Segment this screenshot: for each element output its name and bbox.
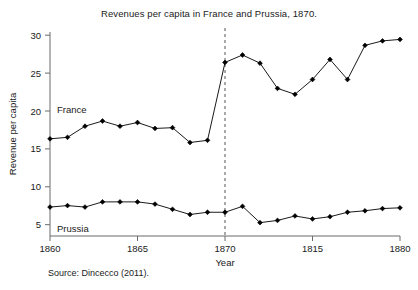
data-point-france-1871 <box>240 53 245 58</box>
data-point-france-1880 <box>398 37 403 42</box>
data-point-prussia-1877 <box>345 210 350 215</box>
data-point-prussia-1868 <box>188 212 193 217</box>
y-axis-title: Revenue per capita <box>7 92 18 175</box>
x-tick-label-1865: 1865 <box>127 243 148 254</box>
y-tick-label-30: 30 <box>30 30 41 41</box>
source-note: Source: Dincecco (2011). <box>48 268 149 278</box>
data-point-prussia-1874 <box>293 214 298 219</box>
data-point-france-1879 <box>380 39 385 44</box>
data-point-prussia-1879 <box>380 206 385 211</box>
x-tick-label-1870: 1870 <box>214 243 235 254</box>
data-point-france-1865 <box>135 120 140 125</box>
x-axis-ticks <box>50 236 400 241</box>
x-tick-label-1860: 1860 <box>39 243 60 254</box>
x-tick-label-1875: 1815 <box>302 243 323 254</box>
data-point-france-1878 <box>363 43 368 48</box>
data-point-france-1869 <box>205 138 210 143</box>
y-tick-label-20: 20 <box>30 106 41 117</box>
data-point-prussia-1880 <box>398 205 403 210</box>
data-point-france-1870 <box>223 60 228 65</box>
data-point-prussia-1878 <box>363 208 368 213</box>
data-point-france-1862 <box>83 124 88 129</box>
y-tick-label-5: 5 <box>36 219 41 230</box>
series-annotation-france: France <box>57 104 87 115</box>
data-point-france-1861 <box>65 135 70 140</box>
x-axis-title: Year <box>215 257 234 268</box>
data-point-prussia-1861 <box>65 203 70 208</box>
x-axis-tick-labels: 1860 1865 1870 1815 1880 <box>39 243 410 254</box>
chart-figure: Revenues per capita in France and Prussi… <box>0 0 418 290</box>
data-point-prussia-1875 <box>310 217 315 222</box>
data-point-prussia-1869 <box>205 210 210 215</box>
data-point-prussia-1870 <box>223 210 228 215</box>
data-point-prussia-1867 <box>170 207 175 212</box>
x-tick-label-1880: 1880 <box>389 243 410 254</box>
data-point-prussia-1865 <box>135 199 140 204</box>
data-point-prussia-1864 <box>118 199 123 204</box>
y-tick-label-25: 25 <box>30 68 41 79</box>
y-axis-tick-labels: 30 25 20 15 10 5 <box>30 30 41 231</box>
data-point-france-1864 <box>118 124 123 129</box>
data-point-prussia-1866 <box>153 202 158 207</box>
data-point-france-1860 <box>48 136 53 141</box>
data-point-prussia-1860 <box>48 205 53 210</box>
series-annotation-prussia: Prussia <box>57 223 89 234</box>
y-tick-label-15: 15 <box>30 143 41 154</box>
line-chart-plot: 30 25 20 15 10 5 1860 1865 1870 1815 188… <box>0 0 418 290</box>
data-point-prussia-1863 <box>100 199 105 204</box>
data-point-france-1866 <box>153 126 158 131</box>
data-point-prussia-1862 <box>83 205 88 210</box>
y-tick-label-10: 10 <box>30 181 41 192</box>
data-point-france-1863 <box>100 119 105 124</box>
y-axis-ticks <box>45 35 50 225</box>
data-point-prussia-1873 <box>275 218 280 223</box>
data-point-prussia-1876 <box>328 214 333 219</box>
